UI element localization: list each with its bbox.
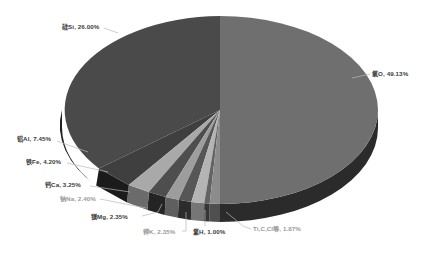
pie-label-al: 铝Al, 7.45% bbox=[17, 136, 51, 142]
pie-label-h: 氢H, 1.00% bbox=[193, 229, 225, 235]
pie-label-si: 硅Si, 26.00% bbox=[62, 24, 99, 30]
pie-label-other: Ti,C,Cl等, 1.87% bbox=[253, 226, 301, 232]
leader-line-si bbox=[104, 28, 118, 33]
pie-label-k: 钾K, 2.35% bbox=[143, 229, 175, 235]
pie-side-other bbox=[210, 204, 220, 222]
pie-chart-figure: 氧O, 49.13% 硅Si, 26.00% 铝Al, 7.45% 铁Fe, 4… bbox=[0, 0, 440, 261]
pie-label-na: 钠Na, 2.40% bbox=[60, 196, 96, 202]
pie-chart-canvas bbox=[0, 0, 440, 261]
pie-label-ca: 钙Ca, 3.25% bbox=[45, 182, 81, 188]
pie-side-na bbox=[165, 197, 179, 218]
pie-label-mg: 镁Mg, 2.35% bbox=[91, 214, 128, 220]
pie-label-fe: 铁Fe, 4.20% bbox=[26, 159, 61, 165]
pie-side-mg bbox=[178, 200, 191, 220]
pie-label-o: 氧O, 49.13% bbox=[372, 71, 408, 77]
pie-side-k bbox=[191, 202, 204, 221]
